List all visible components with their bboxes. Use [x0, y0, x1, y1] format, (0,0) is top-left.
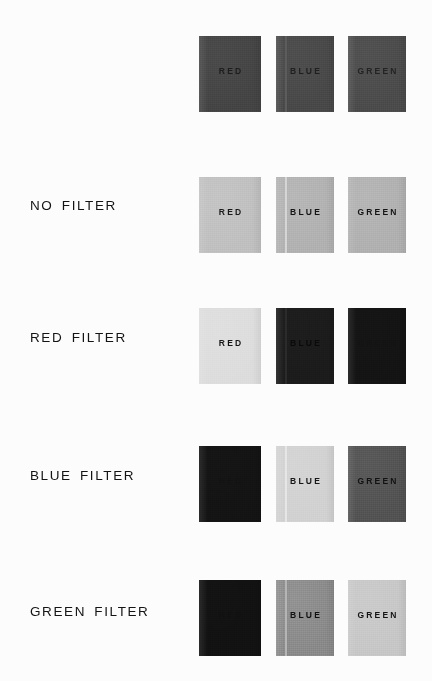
swatch-caption-green-card: GREEN	[348, 207, 406, 217]
swatch-green-filter-red-card: RED	[199, 580, 261, 656]
swatch-red-filter-green-card: GREEN	[348, 308, 406, 384]
swatch-caption-red-card: RED	[199, 66, 261, 76]
filter-row-no-filter: NO FILTERREDBLUEGREEN	[0, 177, 432, 253]
swatch-unlabeled-reference-blue-card: BLUE	[276, 36, 334, 112]
swatch-red-filter-red-card: RED	[199, 308, 261, 384]
row-label-green-filter: GREEN FILTER	[30, 604, 149, 619]
swatch-blue-filter-blue-card: BLUE	[276, 446, 334, 522]
swatch-caption-blue-card: BLUE	[276, 338, 334, 348]
swatch-caption-blue-card: BLUE	[276, 610, 334, 620]
swatch-caption-red-card: RED	[199, 207, 261, 217]
swatch-caption-blue-card: BLUE	[276, 207, 334, 217]
filter-row-red-filter: RED FILTERREDBLUEGREEN	[0, 308, 432, 384]
swatch-caption-red-card: RED	[199, 338, 261, 348]
swatch-green-filter-green-card: GREEN	[348, 580, 406, 656]
row-label-blue-filter: BLUE FILTER	[30, 468, 135, 483]
row-label-red-filter: RED FILTER	[30, 330, 127, 345]
swatch-no-filter-green-card: GREEN	[348, 177, 406, 253]
swatch-no-filter-red-card: RED	[199, 177, 261, 253]
swatch-green-filter-blue-card: BLUE	[276, 580, 334, 656]
swatch-caption-red-card: RED	[199, 476, 261, 486]
swatch-unlabeled-reference-green-card: GREEN	[348, 36, 406, 112]
swatch-no-filter-blue-card: BLUE	[276, 177, 334, 253]
swatch-caption-blue-card: BLUE	[276, 66, 334, 76]
swatch-blue-filter-red-card: RED	[199, 446, 261, 522]
swatch-caption-green-card: GREEN	[348, 338, 406, 348]
row-label-no-filter: NO FILTER	[30, 198, 117, 213]
color-filter-comparison-figure: REDBLUEGREENNO FILTERREDBLUEGREENRED FIL…	[0, 0, 432, 681]
swatch-caption-red-card: RED	[199, 610, 261, 620]
swatch-blue-filter-green-card: GREEN	[348, 446, 406, 522]
filter-row-green-filter: GREEN FILTERREDBLUEGREEN	[0, 580, 432, 656]
swatch-caption-green-card: GREEN	[348, 66, 406, 76]
swatch-red-filter-blue-card: BLUE	[276, 308, 334, 384]
swatch-caption-blue-card: BLUE	[276, 476, 334, 486]
swatch-caption-green-card: GREEN	[348, 610, 406, 620]
swatch-caption-green-card: GREEN	[348, 476, 406, 486]
filter-row-blue-filter: BLUE FILTERREDBLUEGREEN	[0, 446, 432, 522]
filter-row-unlabeled-reference: REDBLUEGREEN	[0, 36, 432, 112]
swatch-unlabeled-reference-red-card: RED	[199, 36, 261, 112]
